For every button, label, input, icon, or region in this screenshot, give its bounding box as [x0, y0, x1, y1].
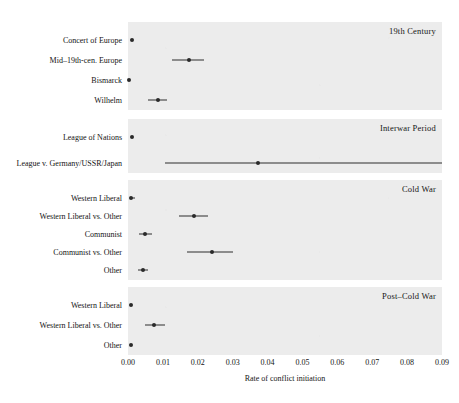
row-label: Mid–19th-cen. Europe: [50, 56, 122, 65]
x-tick-label: 0.02: [191, 358, 205, 367]
estimate-point: [129, 303, 133, 307]
x-tick-label: 0.06: [330, 358, 344, 367]
row-label: Western Liberal: [71, 194, 122, 203]
estimate-point: [152, 323, 156, 327]
x-tick-label: 0.03: [226, 358, 240, 367]
x-tick-label: 0.07: [365, 358, 379, 367]
row-label: Western Liberal: [71, 301, 122, 310]
row-label: Bismarck: [91, 76, 122, 85]
row-label: Wilhelm: [94, 96, 122, 105]
panel-title: Post–Cold War: [382, 291, 436, 301]
row-label: Concert of Europe: [63, 36, 122, 45]
x-tick-label: 0.05: [295, 358, 309, 367]
row-label: Communist vs. Other: [53, 248, 122, 257]
panel-texture: [128, 180, 442, 280]
panel-2: Interwar PeriodLeague of NationsLeague v…: [128, 119, 442, 173]
estimate-point: [130, 135, 134, 139]
estimate-point: [129, 343, 133, 347]
row-label: League of Nations: [63, 133, 122, 142]
estimate-point: [127, 78, 131, 82]
x-tick-label: 0.09: [435, 358, 449, 367]
panel-4: Post–Cold WarWestern LiberalWestern Libe…: [128, 287, 442, 355]
x-tick-label: 0.00: [121, 358, 135, 367]
x-axis: 0.000.010.020.030.040.050.060.070.080.09…: [128, 358, 442, 398]
panel-3: Cold WarWestern LiberalWestern Liberal v…: [128, 180, 442, 280]
row-label: Western Liberal vs. Other: [40, 212, 122, 221]
estimate-point: [192, 214, 196, 218]
x-tick-label: 0.08: [400, 358, 414, 367]
estimate-point: [187, 58, 191, 62]
row-label: Other: [104, 266, 122, 275]
x-tick-label: 0.01: [156, 358, 170, 367]
x-axis-label: Rate of conflict initiation: [128, 374, 442, 383]
panel-title: 19th Century: [389, 26, 436, 36]
estimate-point: [129, 196, 133, 200]
row-label: Communist: [85, 230, 122, 239]
estimate-point: [143, 232, 147, 236]
confidence-interval-whisker: [165, 163, 442, 164]
estimate-point: [156, 98, 160, 102]
row-label: Other: [104, 341, 122, 350]
estimate-point: [210, 250, 214, 254]
conflict-initiation-dot-plot: 19th CenturyConcert of EuropeMid–19th-ce…: [0, 0, 459, 403]
estimate-point: [130, 38, 134, 42]
estimate-point: [141, 268, 145, 272]
row-label: Western Liberal vs. Other: [40, 321, 122, 330]
estimate-point: [256, 161, 260, 165]
row-label: League v. Germany/USSR/Japan: [17, 159, 122, 168]
panel-1: 19th CenturyConcert of EuropeMid–19th-ce…: [128, 22, 442, 110]
x-tick-label: 0.04: [261, 358, 275, 367]
panel-title: Cold War: [402, 184, 436, 194]
panel-title: Interwar Period: [380, 123, 436, 133]
